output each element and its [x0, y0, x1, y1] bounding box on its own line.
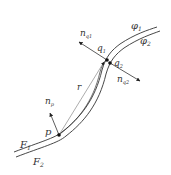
point-p	[57, 133, 61, 137]
label-q2: q2	[114, 58, 123, 69]
label-q1: q1	[97, 43, 106, 54]
label-np: np	[45, 96, 55, 108]
point-q2	[108, 61, 112, 65]
label-r: r	[77, 82, 82, 92]
label-F2: F2	[32, 156, 44, 168]
point-q1	[105, 58, 109, 62]
label-nq2: nq2	[117, 74, 129, 86]
surface-normals-diagram: φ1 φ2 nq1 q1 q2 nq2 r np p F1 F2	[0, 0, 171, 175]
surface-curve-middle	[60, 60, 107, 134]
label-phi1: φ1	[131, 20, 142, 32]
label-F1: F1	[19, 139, 31, 151]
surface-curve-2	[16, 31, 160, 157]
label-nq1: nq1	[80, 28, 92, 40]
label-phi2: φ2	[140, 35, 151, 47]
label-p: p	[45, 126, 52, 137]
